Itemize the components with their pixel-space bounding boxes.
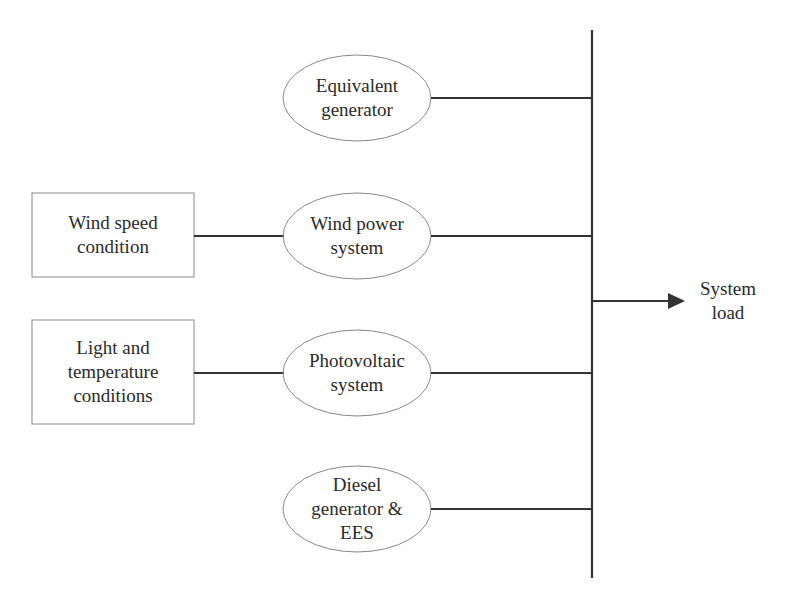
label-line: Light and: [76, 336, 149, 360]
label-line: generator: [321, 98, 393, 122]
equivalent-generator-label: Equivalent generator: [283, 62, 431, 134]
label-line: conditions: [73, 384, 152, 408]
wind-power-label: Wind power system: [283, 200, 431, 272]
label-line: condition: [77, 235, 149, 259]
label-line: Photovoltaic: [309, 349, 405, 373]
label-line: Diesel: [333, 473, 382, 497]
label-line: generator &: [311, 497, 402, 521]
label-line: Wind power: [310, 212, 404, 236]
system-load-label: System load: [688, 275, 768, 327]
label-line: load: [712, 301, 745, 325]
label-line: system: [331, 373, 384, 397]
label-line: system: [331, 236, 384, 260]
label-line: Equivalent: [316, 74, 398, 98]
label-line: System: [700, 277, 756, 301]
label-line: temperature: [68, 360, 159, 384]
wind-speed-label: Wind speed condition: [32, 193, 194, 277]
diesel-ees-label: Diesel generator & EES: [283, 467, 431, 551]
arrow-head-icon: [668, 293, 685, 309]
photovoltaic-label: Photovoltaic system: [283, 337, 431, 409]
label-line: Wind speed: [68, 211, 157, 235]
label-line: EES: [340, 521, 374, 545]
light-temperature-label: Light and temperature conditions: [32, 320, 194, 424]
